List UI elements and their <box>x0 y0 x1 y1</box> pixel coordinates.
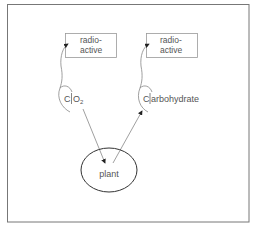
left-radioactive-box: radio- active <box>66 34 117 58</box>
co2-label: C O 2 <box>64 93 84 105</box>
svg-text:O: O <box>73 94 80 104</box>
right-box-line2: active <box>160 45 182 55</box>
svg-text:2: 2 <box>80 99 84 105</box>
co2-to-plant-arrow <box>83 109 105 163</box>
right-box-line1: radio- <box>160 35 182 45</box>
diagram-canvas: radio- active radio- active C O 2 C arbo… <box>0 0 254 225</box>
svg-text:C: C <box>143 94 150 104</box>
svg-text:C: C <box>64 94 71 104</box>
plant-label: plant <box>99 169 119 179</box>
left-box-line2: active <box>80 45 102 55</box>
plant-node: plant <box>81 148 137 192</box>
plant-to-carbohydrate-arrow <box>113 111 142 163</box>
svg-text:arbohydrate: arbohydrate <box>151 94 199 104</box>
left-box-line1: radio- <box>80 35 102 45</box>
diagram-frame <box>8 5 250 223</box>
carbohydrate-label: C arbohydrate <box>143 93 199 104</box>
right-radioactive-box: radio- active <box>147 34 198 58</box>
